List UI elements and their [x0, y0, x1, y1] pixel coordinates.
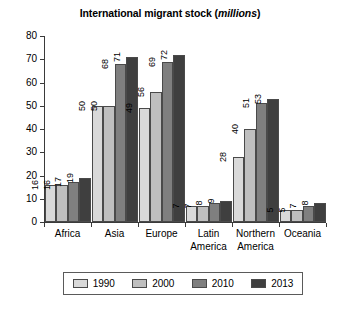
bar-value-label: 53	[264, 94, 273, 104]
bar-value-text: 56	[137, 87, 146, 97]
y-axis-tick-label: 50	[26, 100, 37, 111]
legend-label: 1990	[93, 278, 115, 289]
bar-value-text: 7	[172, 203, 181, 208]
legend-item: 2013	[251, 278, 293, 289]
x-axis-category-label: Oceania	[279, 228, 326, 241]
legend-swatch	[192, 279, 207, 288]
bar: 16	[45, 185, 57, 222]
x-axis-category-label: Europe	[138, 228, 185, 241]
y-axis-tick-label: 80	[26, 30, 37, 41]
bar: 19	[79, 178, 91, 222]
bar: 68	[115, 64, 127, 222]
bar-group: 49566972	[139, 36, 185, 222]
bar: 49	[139, 108, 151, 222]
bar-group: 5578	[280, 36, 326, 222]
bar-value-text: 68	[101, 59, 110, 69]
y-axis-tick: 40	[40, 129, 44, 130]
y-axis-tick-label: 0	[31, 216, 37, 227]
legend-label: 2000	[152, 278, 174, 289]
x-axis-tick	[91, 223, 92, 227]
bar-group: 16161719	[45, 36, 91, 222]
legend-swatch	[132, 279, 147, 288]
bar-value-label: 9	[217, 199, 226, 204]
bar: 9	[220, 201, 232, 222]
bar-value-text: 5	[266, 208, 275, 213]
bar-value-label: 72	[170, 50, 179, 60]
x-axis-tick	[232, 223, 233, 227]
chart-title-main: International migrant stock (	[80, 7, 218, 19]
bar-value-text: 50	[90, 101, 99, 111]
plot-area: 01020304050607080 1616171950506871495669…	[44, 36, 326, 223]
legend-label: 2013	[271, 278, 293, 289]
y-axis-tick-label: 30	[26, 146, 37, 157]
y-axis-tick-label: 70	[26, 53, 37, 64]
bar-value-text: 51	[242, 98, 251, 108]
bar-value-label: 28	[229, 152, 238, 162]
bar-value-text: 53	[254, 94, 263, 104]
legend-item: 2010	[192, 278, 234, 289]
y-axis-tick: 10	[40, 199, 44, 200]
bar: 8	[314, 203, 326, 222]
x-axis-tick	[326, 223, 327, 227]
x-axis-tick	[185, 223, 186, 227]
bar-value-text: 19	[66, 173, 75, 183]
bar-value-label: 40	[241, 124, 250, 134]
y-axis-tick-label: 20	[26, 170, 37, 181]
bar: 40	[244, 129, 256, 222]
y-axis-tick: 20	[40, 176, 44, 177]
bar-group: 50506871	[92, 36, 138, 222]
y-axis-tick-label: 10	[26, 193, 37, 204]
chart-title-unit: millions	[218, 7, 257, 19]
bar: 50	[92, 106, 104, 222]
bar: 5	[291, 210, 303, 222]
bar-value-text: 8	[301, 201, 310, 206]
y-axis-tick: 60	[40, 83, 44, 84]
bar-value-text: 16	[43, 180, 52, 190]
bar-value-text: 72	[160, 50, 169, 60]
bar: 17	[68, 182, 80, 222]
bar-value-label: 8	[311, 201, 320, 206]
y-axis-tick-label: 40	[26, 123, 37, 134]
chart-title-tail: )	[257, 7, 260, 19]
bar: 28	[233, 157, 245, 222]
x-axis-tick	[138, 223, 139, 227]
y-axis-tick: 70	[40, 59, 44, 60]
bar-group: 7789	[186, 36, 232, 222]
chart-legend: 1990200020102013	[63, 272, 303, 295]
bar-value-label: 50	[100, 101, 109, 111]
x-axis-category-label: Asia	[91, 228, 138, 241]
y-axis-tick: 50	[40, 106, 44, 107]
bar-value-text: 16	[31, 180, 40, 190]
bar-value-text: 69	[148, 57, 157, 67]
bar-value-text: 8	[195, 201, 204, 206]
bar: 51	[256, 103, 268, 222]
x-axis-category-label: Africa	[44, 228, 91, 241]
x-axis-category-labels: AfricaAsiaEuropeLatin AmericaNorthern Am…	[44, 228, 326, 268]
bar: 7	[197, 206, 209, 222]
bar-value-label: 71	[123, 52, 132, 62]
legend-item: 1990	[73, 278, 115, 289]
x-axis-tick	[279, 223, 280, 227]
bar: 56	[150, 92, 162, 222]
bar-value-text: 28	[219, 152, 228, 162]
bar-value-text: 5	[278, 208, 287, 213]
bar: 69	[162, 62, 174, 222]
bar: 50	[103, 106, 115, 222]
bar: 16	[56, 185, 68, 222]
bar-value-text: 40	[231, 124, 240, 134]
bar: 8	[209, 203, 221, 222]
bar-value-label: 49	[135, 103, 144, 113]
bar: 53	[267, 99, 279, 222]
bar-value-label: 56	[147, 87, 156, 97]
bar-value-label: 5	[288, 208, 297, 213]
bar-value-text: 7	[184, 203, 193, 208]
legend-label: 2010	[212, 278, 234, 289]
bar: 71	[126, 57, 138, 222]
legend-item: 2000	[132, 278, 174, 289]
legend-swatch	[251, 279, 266, 288]
bar-value-text: 71	[113, 52, 122, 62]
y-axis-tick: 80	[40, 36, 44, 37]
bar-value-text: 17	[54, 177, 63, 187]
bar: 7	[303, 206, 315, 222]
y-axis-tick-label: 60	[26, 77, 37, 88]
